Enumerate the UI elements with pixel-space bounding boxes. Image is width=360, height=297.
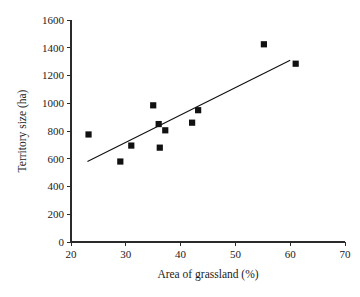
y-tick-label: 1400 xyxy=(42,42,65,54)
x-axis-title: Area of grassland (%) xyxy=(157,268,258,281)
y-tick-label: 200 xyxy=(48,208,65,220)
data-point-marker xyxy=(195,107,201,113)
x-tick-label: 20 xyxy=(66,248,78,260)
data-point-marker xyxy=(293,61,299,67)
data-point-marker xyxy=(157,145,163,151)
y-tick-label: 1200 xyxy=(42,69,65,81)
data-point-marker xyxy=(117,158,123,164)
data-point-marker xyxy=(156,121,162,127)
x-tick-label: 30 xyxy=(120,248,132,260)
data-point-marker xyxy=(128,142,134,148)
y-tick-label: 400 xyxy=(48,180,65,192)
data-point-marker xyxy=(162,127,168,133)
y-tick-label: 1000 xyxy=(42,97,65,109)
x-tick-label: 60 xyxy=(285,248,297,260)
y-axis-title: Territory size (ha) xyxy=(16,89,29,172)
data-point-marker xyxy=(85,131,91,137)
trend-line xyxy=(87,60,290,161)
y-tick-label: 0 xyxy=(59,236,65,248)
scatter-plot-figure: 0200400600800100012001400160020304050607… xyxy=(0,0,360,297)
x-tick-label: 50 xyxy=(230,248,242,260)
data-point-marker xyxy=(189,120,195,126)
y-tick-label: 600 xyxy=(48,153,65,165)
y-tick-label: 800 xyxy=(48,125,65,137)
data-point-marker xyxy=(150,102,156,108)
x-tick-label: 70 xyxy=(340,248,352,260)
x-tick-label: 40 xyxy=(175,248,187,260)
data-point-marker xyxy=(261,41,267,47)
y-tick-label: 1600 xyxy=(42,14,65,26)
